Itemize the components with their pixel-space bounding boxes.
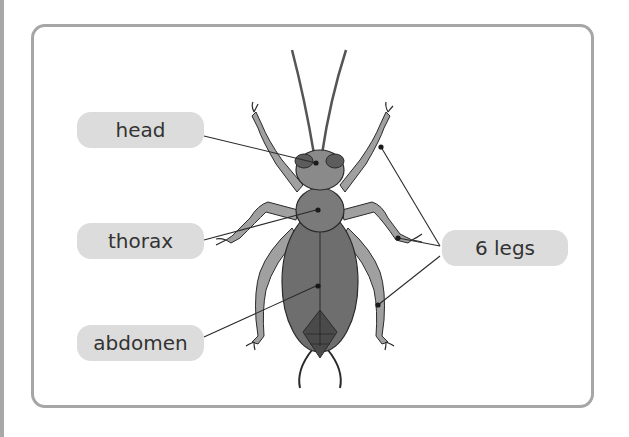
label-abdomen: abdomen (77, 325, 204, 361)
eye-left (295, 154, 313, 168)
pointer-head (204, 136, 316, 163)
antenna-right (322, 50, 346, 154)
eye-right (326, 154, 344, 168)
label-head: head (77, 112, 204, 148)
antenna-left (292, 50, 314, 154)
pointer-leg-3 (378, 256, 440, 305)
label-thorax: thorax (77, 223, 204, 259)
leg-front-left (252, 112, 303, 192)
insect-illustration (0, 0, 629, 437)
leg-front-right (340, 112, 390, 192)
label-legs: 6 legs (442, 230, 568, 266)
